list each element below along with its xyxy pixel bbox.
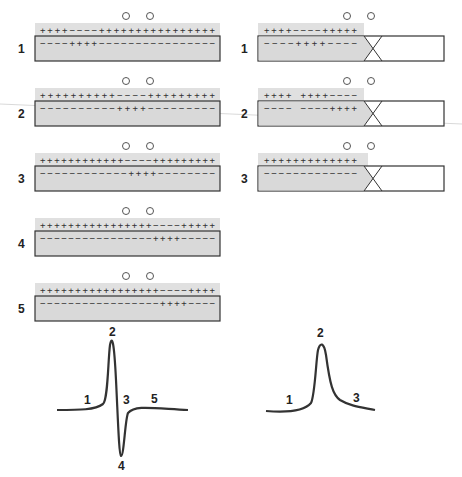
fiber-row: ++++−−−−++++++++++++++++−−−−++++−−−−−−−−… [18, 13, 220, 62]
inner-charges: −−−−−−−−−−−−− [264, 168, 358, 178]
wave-label-3: 3 [353, 391, 360, 405]
electrode-icon [123, 273, 130, 280]
outer-charges: ++++++++++−−−−+++++++++ [40, 90, 216, 100]
wave-label-1: 1 [286, 393, 293, 407]
row-label: 3 [241, 172, 248, 186]
inner-charges: −−−−++++−−−−−−−−−−−−−−−− [40, 38, 216, 48]
fiber-row: +++++++++++++++++−−−−++++−−−−−−−−−−−−−−−… [18, 273, 220, 322]
electrode-icon [368, 13, 375, 20]
left-panel: ++++−−−−++++++++++++++++−−−−++++−−−−−−−−… [18, 13, 220, 322]
electrode-icon [368, 143, 375, 150]
wave-label-4: 4 [118, 459, 125, 473]
electrode-icon [123, 143, 130, 150]
wave-label-2: 2 [317, 326, 324, 340]
fiber-row: ++++++++++++++++−−−−+++++−−−−−−−−−−−−−−−… [18, 208, 220, 257]
electrode-icon [344, 143, 351, 150]
electrode-icon [368, 78, 375, 85]
electrode-icon [147, 143, 154, 150]
inner-charges: −−−− −−−−++++ [264, 103, 358, 113]
fiber-row: +++++++++++++−−−−−−−−−−−−−3 [241, 143, 444, 192]
row-label: 1 [18, 42, 25, 56]
inner-charges: −−−−−−−−−−−−−−−−++++−−−−− [40, 233, 216, 243]
row-label: 4 [18, 237, 25, 251]
outer-charges: ++++−−−−+++++ [264, 25, 358, 35]
monophasic-waveform: 1 2 3 [266, 326, 375, 412]
outer-charges: ++++−−−−++++++++++++++++ [40, 25, 216, 35]
electrode-icon [123, 208, 130, 215]
biphasic-waveform: 1 2 3 4 5 [57, 325, 188, 473]
fiber-row: ++++++++++−−−−+++++++++−−−−−−−−−−++++−−−… [18, 78, 220, 127]
electrode-icon [147, 273, 154, 280]
inner-charges: −−−−−−−−−−−−++++−−−−−−−− [40, 168, 216, 178]
row-label: 2 [18, 107, 25, 121]
right-panel: ++++−−−−+++++−−−−++++−−−−1++++ ++++−−−−−… [241, 13, 444, 192]
outer-charges: +++++++++++++++++−−−−++++ [40, 285, 216, 295]
inner-charges: −−−−−−−−−−++++−−−−−−−−− [40, 103, 216, 113]
nerve-conduction-diagram: ++++−−−−++++++++++++++++−−−−++++−−−−−−−−… [0, 0, 462, 477]
outer-charges: ++++ ++++−−−− [264, 90, 358, 100]
outer-charges: ++++++++++++++++−−−−+++++ [40, 220, 216, 230]
fiber-row: ++++++++++++−−−−+++++++++−−−−−−−−−−−−+++… [18, 143, 220, 192]
row-label: 5 [18, 302, 25, 316]
electrode-icon [344, 13, 351, 20]
electrode-icon [147, 208, 154, 215]
row-label: 1 [241, 42, 248, 56]
fiber-row: ++++−−−−+++++−−−−++++−−−−1 [241, 13, 444, 62]
electrode-icon [344, 78, 351, 85]
row-label: 2 [241, 107, 248, 121]
wave-label-1: 1 [84, 393, 91, 407]
inner-charges: −−−−−−−−−−−−−−−−−++++−−−− [40, 298, 216, 308]
row-label: 3 [18, 172, 25, 186]
wave-label-5: 5 [151, 392, 158, 406]
electrode-icon [147, 78, 154, 85]
electrode-icon [147, 13, 154, 20]
outer-charges: ++++++++++++−−−−+++++++++ [40, 155, 216, 165]
fiber-row: ++++ ++++−−−−−−−− −−−−++++2 [241, 78, 444, 127]
electrode-icon [123, 13, 130, 20]
electrode-icon [123, 78, 130, 85]
outer-charges: +++++++++++++ [264, 155, 358, 165]
wave-label-3: 3 [123, 393, 130, 407]
wave-label-2: 2 [109, 325, 116, 339]
